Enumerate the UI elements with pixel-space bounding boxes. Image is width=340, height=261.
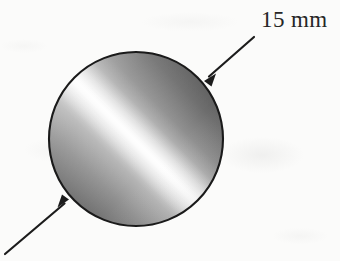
figure-root: 15 mm xyxy=(0,0,340,261)
lower-left-leader-arrow xyxy=(5,195,69,255)
rod-cross-section-diagram xyxy=(0,0,340,261)
diameter-dimension-label: 15 mm xyxy=(261,8,328,31)
upper-right-leader-arrow xyxy=(204,37,254,87)
rod-disc xyxy=(49,52,223,226)
